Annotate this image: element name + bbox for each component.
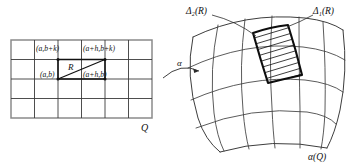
corner-dot-bottom-left bbox=[57, 78, 60, 81]
math-figure: (a,b+k) (a+h,b+k) (a,b) (a+h,b) R Q α bbox=[0, 0, 353, 165]
figure-container: (a,b+k) (a+h,b+k) (a,b) (a+h,b) R Q α bbox=[0, 0, 353, 165]
alpha-map-arrow-group: α bbox=[163, 58, 199, 78]
corner-dot-top-right bbox=[104, 58, 107, 61]
image-grid-right-boundary bbox=[327, 30, 345, 148]
label-delta-2: Δ₂(R) bbox=[185, 6, 207, 17]
label-image-alpha-q: α(Q) bbox=[308, 152, 326, 163]
delta-2-annotation: Δ₂(R) bbox=[185, 6, 256, 36]
domain-grid-group: (a,b+k) (a+h,b+k) (a,b) (a+h,b) R Q bbox=[11, 40, 152, 133]
delta-1-annotation: Δ₁(R) bbox=[287, 6, 334, 27]
label-alpha-map: α bbox=[177, 58, 182, 68]
label-delta-1: Δ₁(R) bbox=[312, 6, 334, 17]
label-rectangle-r: R bbox=[67, 62, 74, 72]
label-bottom-left-corner: (a,b) bbox=[40, 70, 55, 79]
label-domain-q: Q bbox=[141, 122, 149, 133]
alpha-arrow-head bbox=[193, 68, 199, 73]
label-top-right-corner: (a+h,b+k) bbox=[83, 44, 115, 53]
label-bottom-right-corner: (a+h,b) bbox=[83, 70, 107, 79]
image-grid-bottom-boundary bbox=[220, 143, 327, 152]
image-grid-transverse-lines bbox=[188, 46, 345, 128]
patch-boundary bbox=[253, 25, 302, 83]
delta-2-leader-line bbox=[212, 15, 256, 36]
corner-dot-top-left bbox=[57, 58, 60, 61]
image-grid-group: Δ₂(R) Δ₁(R) α(Q) bbox=[185, 6, 345, 163]
label-top-left-corner: (a,b+k) bbox=[36, 44, 60, 53]
